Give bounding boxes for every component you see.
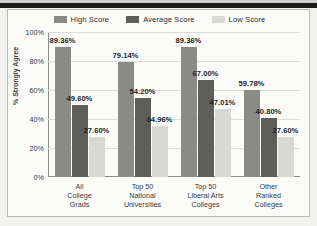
bar-column: 79.14%	[118, 32, 134, 177]
legend-label: Average Score	[143, 15, 194, 24]
bar-group: 89.36%67.00%47.01%Top 50Liberal ArtsColl…	[174, 32, 237, 177]
bar[interactable]	[118, 62, 134, 177]
bar[interactable]	[72, 105, 88, 177]
bar[interactable]	[278, 137, 294, 177]
y-axis-tick-label: 100%	[26, 28, 44, 37]
bar-value-label: 27.60%	[273, 126, 299, 135]
legend-label: Low Score	[229, 15, 266, 24]
bar-column: 89.36%	[55, 32, 71, 177]
y-axis-tick-label: 60%	[30, 86, 44, 95]
bar-column: 27.60%	[89, 32, 105, 177]
chart-legend: High ScoreAverage ScoreLow Score	[8, 15, 311, 24]
bar[interactable]	[198, 80, 214, 177]
bar-column: 47.01%	[215, 32, 231, 177]
chart-container: High ScoreAverage ScoreLow Score % Stron…	[7, 9, 310, 217]
bar-group-bars: 89.36%67.00%47.01%	[174, 32, 237, 177]
bar-group: 89.36%49.60%27.60%AllCollegeGrads	[48, 32, 111, 177]
scan-edge-shadow	[0, 3, 317, 8]
scanned-page-background: High ScoreAverage ScoreLow Score % Stron…	[0, 0, 317, 226]
y-axis-tick-label: 80%	[30, 57, 44, 66]
x-axis-category-label: OtherRankedColleges	[232, 182, 306, 210]
bar[interactable]	[215, 109, 231, 177]
legend-item-average-score[interactable]: Average Score	[126, 15, 194, 24]
y-axis-title: % Strongly Agree	[12, 47, 19, 105]
bar-group: 79.14%54.20%34.96%Top 50NationalUniversi…	[111, 32, 174, 177]
bar[interactable]	[244, 90, 260, 177]
bar-value-label: 27.60%	[84, 126, 110, 135]
bar-group-bars: 79.14%54.20%34.96%	[111, 32, 174, 177]
legend-swatch-icon	[54, 16, 67, 23]
y-axis-tick-label: 20%	[30, 144, 44, 153]
x-axis-category-line: Ranked	[232, 191, 306, 200]
legend-item-high-score[interactable]: High Score	[54, 15, 110, 24]
legend-label: High Score	[71, 15, 110, 24]
bar-column: 89.36%	[181, 32, 197, 177]
bar[interactable]	[152, 126, 168, 177]
bar-value-label: 34.96%	[147, 115, 173, 124]
bar-column: 34.96%	[152, 32, 168, 177]
plot-area: 0%20%40%60%80%100%89.36%49.60%27.60%AllC…	[48, 32, 300, 177]
bar-column: 54.20%	[135, 32, 151, 177]
bar-value-label: 47.01%	[210, 98, 236, 107]
bar-column: 49.60%	[72, 32, 88, 177]
legend-swatch-icon	[212, 16, 225, 23]
y-axis-tick-label: 0%	[34, 173, 44, 182]
bar[interactable]	[181, 47, 197, 177]
y-axis-tick-label: 40%	[30, 115, 44, 124]
bar-group-bars: 89.36%49.60%27.60%	[48, 32, 111, 177]
bar[interactable]	[135, 98, 151, 177]
x-axis-category-line: Colleges	[232, 200, 306, 209]
legend-item-low-score[interactable]: Low Score	[212, 15, 266, 24]
legend-swatch-icon	[126, 16, 139, 23]
x-axis-category-line: Other	[232, 182, 306, 191]
bar[interactable]	[55, 47, 71, 177]
bar-group-bars: 59.78%40.80%27.60%	[237, 32, 300, 177]
bar-column: 59.78%	[244, 32, 260, 177]
bar-column: 40.80%	[261, 32, 277, 177]
bar-column: 27.60%	[278, 32, 294, 177]
bar-group: 59.78%40.80%27.60%OtherRankedColleges	[237, 32, 300, 177]
bar[interactable]	[89, 137, 105, 177]
